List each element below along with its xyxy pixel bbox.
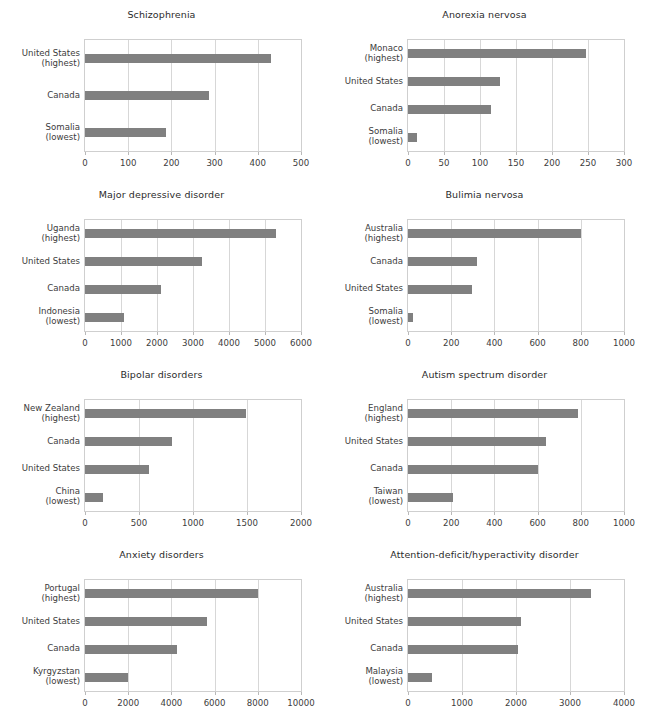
plot-area (84, 399, 302, 512)
x-tick-mark (408, 332, 409, 335)
x-axis-ticks: 02004006008001000 (407, 332, 625, 354)
bar (408, 617, 521, 626)
y-axis-label-rank: (lowest) (33, 676, 80, 686)
y-axis-label-country: United States (22, 48, 80, 58)
y-axis-label-rank: (lowest) (365, 676, 403, 686)
y-axis-label-country: Indonesia (38, 306, 80, 316)
x-tick-mark (258, 152, 259, 155)
x-tick-label: 2000 (505, 698, 527, 708)
x-tick-mark (516, 692, 517, 695)
y-axis-label-rank: (highest) (364, 53, 403, 63)
chart-title: Major depressive disorder (0, 189, 323, 200)
x-axis-ticks: 0500100015002000 (84, 512, 302, 534)
y-axis-label-canada: Canada (370, 103, 403, 113)
x-tick-label: 3000 (182, 338, 204, 348)
y-axis-label-malaysia: Malaysia(lowest) (365, 666, 403, 686)
x-tick-label: 100 (472, 158, 488, 168)
y-axis-label-country: Australia (365, 223, 403, 233)
y-axis-label-rank: (highest) (41, 233, 80, 243)
bar (85, 645, 177, 654)
y-axis-label-country: Kyrgyzstan (33, 666, 80, 676)
y-axis-label-country: Canada (47, 436, 80, 446)
x-tick-label: 600 (529, 338, 545, 348)
y-axis-label-monaco: Monaco(highest) (364, 43, 403, 63)
x-tick-mark (494, 332, 495, 335)
x-tick-mark (494, 512, 495, 515)
y-axis-label-united-states: United States (345, 76, 403, 86)
y-axis-label-country: United States (22, 463, 80, 473)
plot-area (407, 579, 625, 692)
bar (85, 673, 128, 682)
x-tick-label: 800 (573, 518, 589, 528)
y-axis-label-united-states: United States(highest) (22, 48, 80, 68)
bar (85, 493, 103, 502)
x-axis-ticks: 0200040006000800010000 (84, 692, 302, 714)
y-axis-label-rank: (highest) (41, 593, 80, 603)
x-tick-mark (265, 332, 266, 335)
chart-panel-schizophrenia: SchizophreniaUnited States(highest)Canad… (0, 0, 323, 180)
bar (408, 409, 578, 418)
x-tick-mark (588, 152, 589, 155)
y-axis-label-country: Canada (370, 103, 403, 113)
x-tick-mark (624, 512, 625, 515)
x-tick-label: 8000 (247, 698, 269, 708)
bar (85, 128, 166, 137)
plot-area (84, 579, 302, 692)
x-tick-mark (85, 692, 86, 695)
x-tick-mark (128, 152, 129, 155)
x-tick-label: 200 (544, 158, 560, 168)
y-axis-labels: England(highest)United StatesCanadaTaiwa… (323, 399, 403, 512)
y-axis-label-country: Canada (47, 643, 80, 653)
y-axis-label-united-states: United States (22, 463, 80, 473)
bar (85, 589, 258, 598)
y-axis-label-rank: (highest) (22, 58, 80, 68)
x-tick-mark (171, 692, 172, 695)
x-tick-mark (462, 692, 463, 695)
y-axis-label-united-states: United States (22, 256, 80, 266)
x-tick-mark (85, 512, 86, 515)
x-tick-label: 0 (82, 698, 87, 708)
x-tick-label: 500 (293, 158, 309, 168)
y-axis-label-united-states: United States (22, 616, 80, 626)
x-tick-mark (581, 512, 582, 515)
x-tick-mark (538, 512, 539, 515)
y-axis-labels: Uganda(highest)United StatesCanadaIndone… (0, 219, 80, 332)
x-tick-mark (516, 152, 517, 155)
x-tick-label: 0 (82, 158, 87, 168)
chart-panel-anxiety-disorders: Anxiety disordersPortugal(highest)United… (0, 540, 323, 717)
y-axis-label-rank: (lowest) (368, 316, 403, 326)
y-axis-labels: Australia(highest)United StatesCanadaMal… (323, 579, 403, 692)
y-axis-label-canada: Canada (47, 283, 80, 293)
y-axis-label-country: Somalia (46, 122, 80, 132)
x-tick-label: 6000 (290, 338, 312, 348)
chart-panel-bulimia-nervosa: Bulimia nervosaAustralia(highest)CanadaU… (323, 180, 646, 360)
x-tick-mark (215, 692, 216, 695)
x-tick-label: 200 (443, 338, 459, 348)
x-tick-label: 2000 (146, 338, 168, 348)
bar (85, 54, 271, 63)
y-axis-label-country: United States (345, 76, 403, 86)
y-axis-label-rank: (highest) (364, 233, 403, 243)
x-tick-mark (444, 152, 445, 155)
y-axis-label-australia: Australia(highest) (364, 223, 403, 243)
y-axis-label-country: United States (22, 616, 80, 626)
x-tick-mark (624, 152, 625, 155)
x-tick-mark (121, 332, 122, 335)
plot-area (84, 219, 302, 332)
x-tick-label: 200 (163, 158, 179, 168)
y-axis-label-portugal: Portugal(highest) (41, 583, 80, 603)
x-axis-ticks: 0100200300400500 (84, 152, 302, 174)
bar (85, 229, 276, 238)
y-axis-label-country: New Zealand (24, 403, 80, 413)
bar (85, 91, 209, 100)
bar (408, 49, 586, 58)
x-tick-mark (301, 332, 302, 335)
chart-panel-anorexia-nervosa: Anorexia nervosaMonaco(highest)United St… (323, 0, 646, 180)
y-axis-label-country: Canada (370, 256, 403, 266)
x-tick-label: 4000 (160, 698, 182, 708)
x-tick-label: 1000 (451, 698, 473, 708)
x-tick-label: 50 (439, 158, 450, 168)
gridline (581, 220, 582, 331)
y-axis-label-taiwan: Taiwan(lowest) (368, 486, 403, 506)
bar (408, 77, 500, 86)
